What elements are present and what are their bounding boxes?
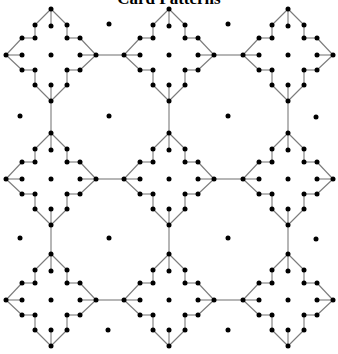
motif-node	[33, 207, 38, 212]
motif-node	[270, 268, 275, 273]
motif-edge	[169, 330, 185, 346]
motif-node	[94, 177, 99, 182]
motif-node	[257, 192, 262, 197]
motif-node	[270, 313, 275, 318]
motif-node	[302, 192, 307, 197]
motif-node	[302, 328, 307, 333]
motif-node	[270, 192, 275, 197]
motif-edge	[272, 330, 288, 346]
motif-node	[65, 68, 70, 73]
motif-node	[183, 147, 188, 152]
isolated-dot	[226, 328, 231, 333]
motif-node	[167, 148, 172, 153]
motif-node	[49, 99, 54, 104]
motif-edge	[317, 179, 333, 194]
motif-node	[151, 268, 156, 273]
motif-edge	[6, 179, 22, 194]
motif-node	[151, 68, 156, 73]
motif-node	[49, 252, 54, 257]
motif-edge	[243, 283, 259, 300]
motif-node	[33, 281, 38, 286]
motif-node	[167, 298, 172, 303]
motif-edge	[153, 330, 169, 346]
motif-node	[183, 68, 188, 73]
motif-node	[49, 53, 54, 58]
motif-node	[138, 160, 143, 165]
motif-node	[20, 36, 25, 41]
motif-node	[196, 160, 201, 165]
isolated-dot	[314, 237, 319, 242]
motif-node	[315, 177, 320, 182]
isolated-dot	[107, 114, 112, 119]
motif-node	[302, 207, 307, 212]
motif-node	[257, 177, 262, 182]
motif-node	[286, 99, 291, 104]
motif-node	[257, 36, 262, 41]
motif-edge	[124, 283, 140, 300]
motif-edge	[35, 330, 51, 346]
motif-node	[196, 177, 201, 182]
motif-node	[65, 328, 70, 333]
motif-node	[151, 147, 156, 152]
motif-node	[257, 298, 262, 303]
card-patterns-figure: Card Patterns	[0, 0, 338, 354]
motif-node	[286, 7, 291, 12]
motif-node	[302, 313, 307, 318]
motif-node	[167, 252, 172, 257]
motif-edge	[317, 55, 333, 70]
motif-node	[33, 83, 38, 88]
motif-edge	[288, 254, 304, 270]
motif-node	[302, 268, 307, 273]
motif-edge	[6, 162, 22, 179]
motif-node	[270, 160, 275, 165]
motif-node	[167, 7, 172, 12]
motif-edge	[243, 162, 259, 179]
motif-edge	[35, 209, 51, 225]
motif-edge	[6, 55, 22, 70]
motif-edge	[80, 38, 96, 55]
motif-node	[49, 328, 54, 333]
motif-edge	[198, 55, 214, 70]
motif-edge	[317, 162, 333, 179]
motif-node	[257, 313, 262, 318]
motif-edge	[153, 209, 169, 225]
motif-edge	[51, 85, 67, 101]
motif-node	[315, 36, 320, 41]
motif-node	[196, 36, 201, 41]
motif-node	[20, 192, 25, 197]
motif-node	[315, 192, 320, 197]
motif-node	[49, 7, 54, 12]
motif-node	[78, 298, 83, 303]
motif-node	[65, 313, 70, 318]
motif-edge	[243, 300, 259, 315]
motif-node	[49, 131, 54, 136]
motif-node	[196, 281, 201, 286]
motif-node	[302, 23, 307, 28]
motif-edge	[288, 209, 304, 225]
isolated-dot	[18, 114, 23, 119]
motif-node	[49, 177, 54, 182]
motif-edge	[288, 133, 304, 149]
motif-node	[33, 68, 38, 73]
motif-edge	[272, 85, 288, 101]
motif-edge	[153, 9, 169, 25]
motif-edge	[288, 9, 304, 25]
motif-node	[270, 281, 275, 286]
motif-node	[196, 298, 201, 303]
motif-node	[302, 281, 307, 286]
motif-edge	[288, 85, 304, 101]
motif-node	[315, 160, 320, 165]
nodes-layer	[4, 7, 336, 349]
motif-node	[183, 313, 188, 318]
motif-node	[33, 36, 38, 41]
motif-node	[4, 298, 9, 303]
motif-edge	[35, 85, 51, 101]
motif-edge	[198, 162, 214, 179]
motif-node	[78, 281, 83, 286]
motif-edge	[169, 85, 185, 101]
motif-edge	[124, 55, 140, 70]
motif-edge	[6, 283, 22, 300]
motif-edge	[317, 38, 333, 55]
motif-node	[4, 177, 9, 182]
motif-node	[151, 207, 156, 212]
